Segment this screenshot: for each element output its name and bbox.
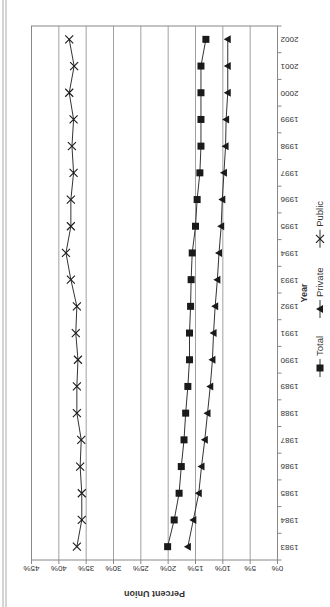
data-point-total [197, 143, 204, 150]
data-point-total [189, 249, 196, 256]
y-tick-label: 25% [133, 564, 149, 573]
y-axis-title: Percent Union [124, 589, 185, 599]
x-tick-label: 1992 [280, 302, 298, 311]
data-point-public [73, 543, 81, 551]
line-chart: 0%5%10%15%20%25%30%35%40%45% 19831984198… [0, 0, 330, 607]
x-axis-ticks: 1983198419851986198719881989199019911992… [278, 26, 299, 560]
x-tick-label: 1988 [280, 409, 298, 418]
y-tick-label: 20% [160, 564, 176, 573]
data-point-total [202, 36, 209, 43]
legend: TotalPrivatePublic [314, 201, 325, 377]
x-tick-label: 2002 [280, 35, 298, 44]
legend-item-public: Public [314, 201, 325, 248]
x-tick-label: 1997 [280, 169, 298, 178]
data-point-total [176, 490, 183, 497]
y-tick-label: 15% [187, 564, 203, 573]
data-point-total [197, 116, 204, 123]
x-tick-label: 1983 [280, 543, 298, 552]
y-tick-label: 30% [105, 564, 121, 573]
x-tick-label: 1987 [280, 436, 298, 445]
x-tick-label: 1995 [280, 222, 298, 231]
plot-area [32, 26, 278, 560]
data-point-total [188, 276, 195, 283]
data-point-total [182, 410, 189, 417]
chart-container: 0%5%10%15%20%25%30%35%40%45% 19831984198… [0, 0, 330, 607]
data-point-total [178, 463, 185, 470]
data-point-public [62, 249, 70, 257]
data-point-public [67, 276, 75, 284]
data-point-total [181, 436, 188, 443]
y-tick-label: 10% [215, 564, 231, 573]
legend-marker-square-icon [317, 365, 324, 372]
legend-label: Total [314, 336, 325, 356]
x-tick-label: 1990 [280, 356, 298, 365]
x-tick-label: 1993 [280, 276, 298, 285]
y-axis-ticks: 0%5%10%15%20%25%30%35%40%45% [23, 560, 283, 573]
gridlines [59, 26, 250, 560]
x-tick-label: 1989 [280, 382, 298, 391]
data-point-total [192, 223, 199, 230]
y-tick-label: 35% [78, 564, 94, 573]
series-total [164, 36, 209, 550]
data-point-total [186, 356, 193, 363]
series-line-public [66, 39, 82, 546]
y-tick-label: 0% [272, 564, 284, 573]
y-tick-label: 40% [51, 564, 67, 573]
data-point-total [184, 383, 191, 390]
series-group [62, 35, 231, 550]
x-tick-label: 1998 [280, 142, 298, 151]
legend-item-private: Private [314, 267, 325, 318]
legend-label: Private [314, 267, 325, 297]
series-line-total [168, 39, 206, 546]
legend-label: Public [314, 201, 325, 227]
x-tick-label: 2001 [280, 62, 298, 71]
y-tick-label: 5% [244, 564, 256, 573]
data-point-total [171, 516, 178, 523]
data-point-total [197, 63, 204, 70]
x-tick-label: 1994 [280, 249, 298, 258]
y-tick-label: 45% [23, 564, 39, 573]
data-point-total [197, 89, 204, 96]
data-point-public [65, 35, 73, 43]
data-point-total [164, 543, 171, 550]
data-point-public [70, 62, 78, 70]
data-point-total [186, 330, 193, 337]
x-tick-label: 2000 [280, 89, 298, 98]
x-axis-title: Year [299, 283, 309, 303]
data-point-private [184, 543, 191, 551]
x-tick-label: 1999 [280, 115, 298, 124]
x-tick-label: 1991 [280, 329, 298, 338]
legend-item-total: Total [314, 336, 325, 377]
series-public [62, 35, 86, 550]
x-tick-label: 1984 [280, 516, 298, 525]
data-point-total [196, 169, 203, 176]
data-point-total [194, 196, 201, 203]
x-tick-label: 1985 [280, 489, 298, 498]
x-tick-label: 1996 [280, 195, 298, 204]
data-point-total [187, 303, 194, 310]
x-tick-label: 1986 [280, 462, 298, 471]
series-line-private [188, 39, 228, 546]
